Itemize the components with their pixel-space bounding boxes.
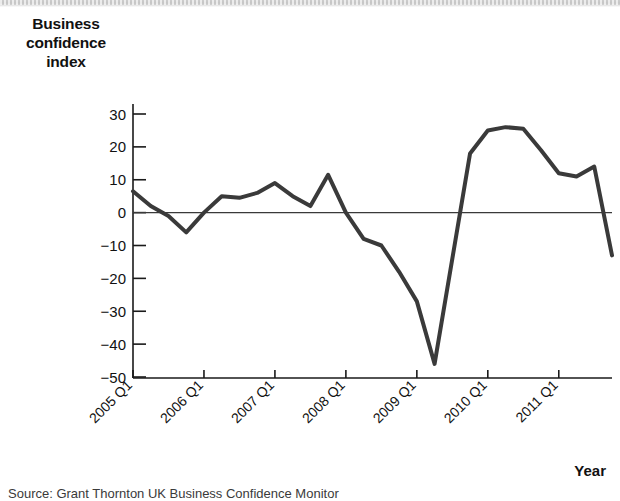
x-tick-label: 2011 Q1 [512, 377, 561, 426]
x-axis-ticks [133, 370, 559, 378]
x-axis-title: Year [574, 462, 606, 479]
y-axis-ticks: 3020100−10−20−30−40−50 [101, 106, 146, 386]
x-axis-tick-labels: 2005 Q12006 Q12007 Q12008 Q12009 Q12010 … [86, 377, 561, 426]
source-note: Source: Grant Thornton UK Business Confi… [8, 486, 339, 501]
y-tick-label: −30 [101, 303, 126, 320]
data-series-line [133, 127, 612, 364]
y-tick-label: 30 [109, 106, 126, 123]
y-tick-label: −10 [101, 237, 126, 254]
y-tick-label: 10 [109, 171, 126, 188]
x-tick-label: 2010 Q1 [441, 377, 490, 426]
x-tick-label: 2009 Q1 [370, 377, 419, 426]
x-tick-label: 2007 Q1 [228, 377, 277, 426]
y-tick-label: −20 [101, 270, 126, 287]
y-tick-label: −40 [101, 336, 126, 353]
x-tick-label: 2008 Q1 [299, 377, 348, 426]
y-tick-label: 20 [109, 138, 126, 155]
x-tick-label: 2006 Q1 [157, 377, 206, 426]
y-tick-label: 0 [118, 204, 126, 221]
